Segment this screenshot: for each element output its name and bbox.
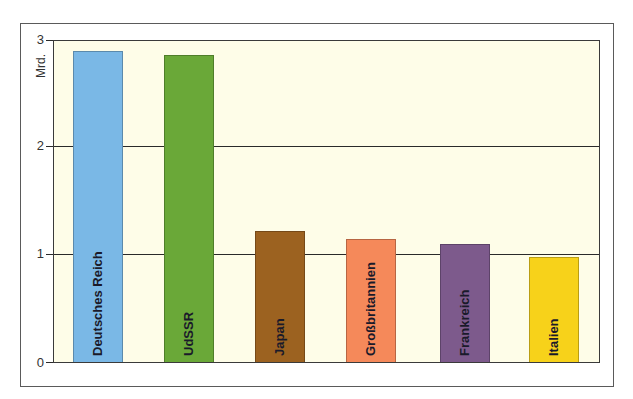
bar-label: Deutsches Reich: [90, 251, 105, 356]
bar-udssr: UdSSR: [164, 55, 214, 362]
bar-label: Großbritannien: [363, 262, 378, 356]
y-tick-label-3: 3: [30, 32, 44, 47]
y-tick-1: [46, 254, 53, 255]
y-axis-unit-label: Mrd.: [34, 54, 48, 78]
plot-area: Deutsches Reich UdSSR Japan Großbritanni…: [53, 40, 600, 363]
y-tick-3: [46, 40, 53, 41]
gridline-2: [54, 146, 599, 147]
bar-frankreich: Frankreich: [440, 244, 490, 362]
bar-grossbritannien: Großbritannien: [346, 239, 396, 362]
bar-italien: Italien: [529, 257, 579, 362]
bar-label: Japan: [272, 318, 287, 356]
y-tick-label-0: 0: [30, 355, 44, 370]
bar-japan: Japan: [255, 231, 305, 362]
bar-label: UdSSR: [181, 312, 196, 356]
y-tick-label-1: 1: [30, 246, 44, 261]
y-tick-2: [46, 146, 53, 147]
y-tick-label-2: 2: [30, 138, 44, 153]
gridline-1: [54, 254, 599, 255]
bar-label: Italien: [546, 318, 561, 356]
bar-label: Frankreich: [457, 290, 472, 356]
y-tick-0: [46, 362, 53, 363]
bar-deutsches-reich: Deutsches Reich: [73, 51, 123, 362]
